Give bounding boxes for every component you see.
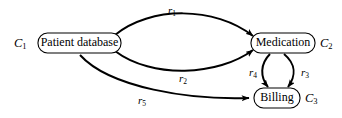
edge-r4-label: r4 (249, 66, 257, 80)
edge-r5: r5 (80, 55, 249, 107)
node-billing-class: C3 (305, 90, 318, 105)
edge-r4: r4 (249, 54, 270, 87)
node-billing-label: Billing (260, 90, 293, 104)
edge-r3: r3 (284, 54, 309, 87)
node-billing[interactable]: Billing C3 (254, 88, 318, 108)
node-patient-database-label: Patient database (41, 35, 119, 49)
edge-r5-label: r5 (138, 94, 146, 108)
node-patient-database-class: C1 (14, 35, 27, 50)
node-medication-class: C2 (320, 35, 333, 50)
graph-svg: r1 r2 r3 r4 r5 (0, 0, 342, 118)
diagram-canvas: r1 r2 r3 r4 r5 (0, 0, 342, 118)
node-medication[interactable]: Medication C2 (251, 33, 333, 53)
edge-r5-path (80, 55, 249, 98)
edge-r3-path (284, 54, 294, 87)
node-patient-database[interactable]: Patient database C1 (14, 33, 121, 53)
edge-r4-path (262, 54, 270, 87)
edge-r1-label: r1 (168, 4, 176, 18)
edge-r2-label: r2 (179, 72, 187, 86)
node-medication-label: Medication (256, 35, 311, 49)
edge-r2-path (115, 50, 253, 71)
edge-r1-path (115, 13, 253, 36)
edge-r1: r1 (115, 4, 253, 36)
edge-r3-label: r3 (301, 66, 309, 80)
edge-r2: r2 (115, 50, 253, 85)
